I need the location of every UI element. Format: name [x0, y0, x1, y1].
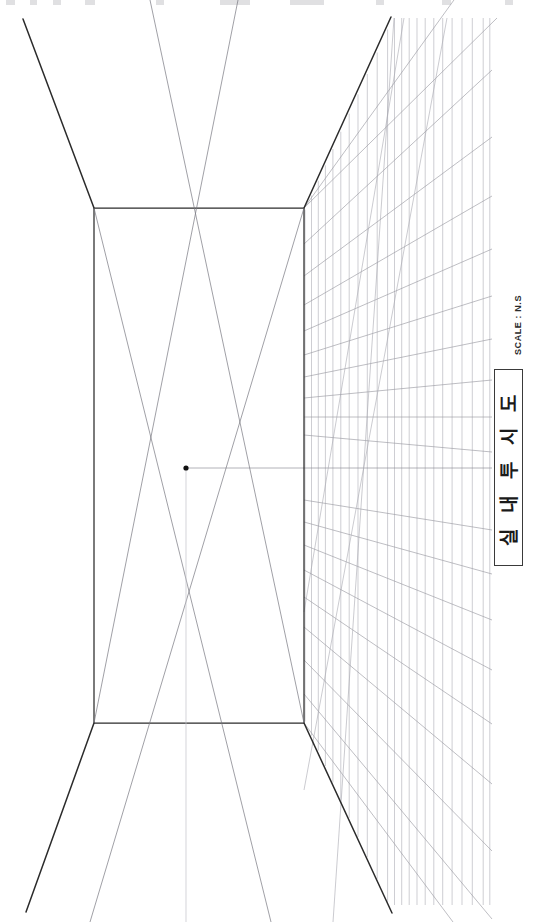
grid-vertical-lines	[305, 18, 490, 905]
vanishing-point-construction-lines	[90, 0, 304, 922]
title-block: 실 내 투 시 도	[494, 369, 523, 566]
perspective-drawing	[0, 0, 543, 922]
scale-note: SCALE : N.S	[508, 290, 528, 360]
title-block-caption: 실 내 투 시 도	[499, 389, 518, 545]
scale-note-text: SCALE : N.S	[514, 295, 523, 355]
back-wall-rectangle	[94, 208, 304, 723]
vanishing-point-marker	[183, 465, 188, 470]
drawing-sheet: SCALE : N.S 실 내 투 시 도	[0, 0, 543, 922]
grid-receding-lines	[186, 0, 497, 922]
